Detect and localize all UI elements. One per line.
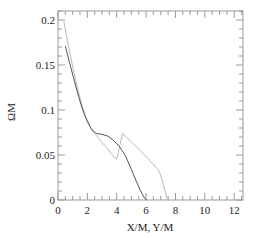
x-tick-label: 2 [85,204,91,216]
x-tick-label: 6 [143,204,149,216]
x-axis-label: X/M, Y/M [127,221,174,233]
y-tick-label: 0 [50,194,56,206]
plot-frame [58,11,243,200]
data-series [64,22,167,200]
x-tick-label: 10 [199,204,211,216]
series-line [64,22,167,200]
plot-border [58,11,243,200]
y-tick-labels: 00.050.10.150.2 [36,14,56,206]
y-axis-label: ΩM [5,103,17,121]
y-tick-label: 0.15 [36,59,56,71]
x-tick-label: 0 [55,204,61,216]
y-tick-label: 0.05 [36,149,56,161]
y-tick-label: 0.2 [41,14,55,26]
x-tick-label: 8 [173,204,179,216]
line-chart: 024681012 00.050.10.150.2 X/M, Y/M ΩM [0,0,256,238]
x-tick-label: 12 [229,204,240,216]
x-tick-labels: 024681012 [55,204,239,216]
series-line [65,46,147,200]
axis-ticks [58,11,243,200]
x-tick-label: 4 [114,204,120,216]
y-tick-label: 0.1 [41,104,55,116]
